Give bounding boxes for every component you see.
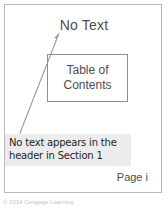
toc-title-line-1: Table of xyxy=(66,63,108,78)
document-header-figure: No Text Table of Contents Page i No text… xyxy=(0,0,168,209)
header-no-text-label: No Text xyxy=(5,17,163,33)
annotation-callout: No text appears in the header in Section… xyxy=(5,134,131,166)
table-of-contents-box: Table of Contents xyxy=(47,54,128,102)
page-number-label: Page i xyxy=(5,170,148,184)
annotation-text-line-2: header in Section 1 xyxy=(9,150,127,163)
copyright-credit: © 2014 Cengage Learning xyxy=(3,198,73,206)
toc-title-line-2: Contents xyxy=(63,78,111,93)
annotation-text-line-1: No text appears in the xyxy=(9,137,127,150)
